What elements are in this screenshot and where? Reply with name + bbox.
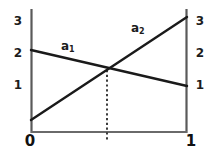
chart-plot-area <box>0 0 216 154</box>
series-line-a2 <box>31 17 187 120</box>
series-annotation-a2: a2 <box>131 22 145 36</box>
right-axis-tick-2: 2 <box>193 47 207 59</box>
x-axis-end-label: 1 <box>183 134 199 149</box>
left-axis-tick-3: 3 <box>11 15 25 27</box>
series-annotation-a1: a1 <box>61 40 75 54</box>
series-annotation-a2-text: a <box>131 21 139 35</box>
series-annotation-a1-subscript: 1 <box>69 45 75 54</box>
chart-figure: 3 2 1 3 2 1 0 1 a1 a2 <box>0 0 216 154</box>
right-axis-tick-1: 1 <box>193 79 207 91</box>
x-axis-origin-label: 0 <box>22 134 38 149</box>
series-annotation-a1-text: a <box>61 39 69 53</box>
left-axis-tick-2: 2 <box>11 47 25 59</box>
left-axis-tick-1: 1 <box>11 79 25 91</box>
right-axis-tick-3: 3 <box>193 15 207 27</box>
series-annotation-a2-subscript: 2 <box>139 27 145 36</box>
